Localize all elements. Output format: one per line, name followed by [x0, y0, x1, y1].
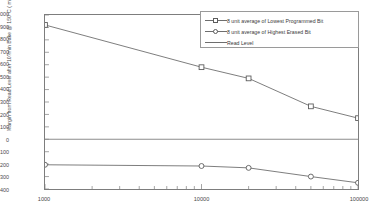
legend-label: Read Level: [227, 40, 253, 46]
x-axis-tick-1000: 1000: [38, 196, 50, 202]
y-axis-tick-1000: 1000: [0, 11, 9, 17]
legend-key-square-marker-icon: [205, 16, 227, 25]
data-point-marker: [199, 164, 204, 169]
x-axis-tick-10000: 10000: [194, 196, 210, 202]
data-point-marker: [246, 165, 251, 170]
y-axis-tick-800: 800: [0, 36, 9, 42]
y-axis-tick-500: 500: [0, 74, 9, 80]
y-axis-tick-700: 700: [0, 49, 9, 55]
y-axis-tick-200: 200: [0, 112, 9, 118]
data-point-marker: [246, 76, 251, 81]
legend-item-highest-erased-bit[interactable]: 8 unit average of Highest Erased Bit: [205, 26, 354, 37]
y-axis-tick-400: 400: [0, 86, 9, 92]
chart-figure: Margin from Read Level after 10?min Bake…: [0, 0, 372, 208]
chart-legend: 8 unit average of Lowest Programmed Bit …: [200, 11, 359, 48]
data-point-marker: [45, 162, 47, 167]
data-point-marker: [356, 116, 358, 121]
legend-label: 8 unit average of Highest Erased Bit: [227, 29, 311, 35]
legend-key-circle-marker-icon: [205, 27, 227, 36]
data-point-marker: [199, 65, 204, 70]
legend-item-read-level[interactable]: Read Level: [205, 37, 354, 48]
y-axis-tick--100: -100: [0, 149, 9, 155]
y-axis-tick--400: -400: [0, 187, 9, 193]
data-point-marker: [308, 174, 313, 179]
data-point-marker: [356, 180, 358, 185]
y-axis-tick-100: 100: [0, 124, 9, 130]
y-axis-tick-600: 600: [0, 61, 9, 67]
y-axis-tick-900: 900: [0, 24, 9, 30]
data-point-marker: [309, 104, 314, 109]
legend-key-line-icon: [205, 38, 227, 47]
legend-label: 8 unit average of Lowest Programmed Bit: [227, 18, 323, 24]
y-axis-tick-300: 300: [0, 99, 9, 105]
y-axis-tick-0: 0: [0, 137, 9, 143]
legend-item-lowest-programmed-bit[interactable]: 8 unit average of Lowest Programmed Bit: [205, 15, 354, 26]
y-axis-tick--200: -200: [0, 162, 9, 168]
y-axis-tick--300: -300: [0, 174, 9, 180]
x-axis-tick-100000: 100000: [350, 196, 369, 202]
data-point-marker: [45, 23, 47, 28]
